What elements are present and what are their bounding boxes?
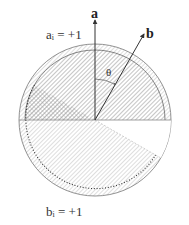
measurement-disk-diagram	[0, 0, 189, 225]
a-outcome-value: = +1	[54, 27, 82, 42]
b-outcome-value: = +1	[55, 204, 83, 219]
vector-a-label: a	[91, 7, 98, 21]
b-outcome-label: bi = +1	[46, 205, 82, 219]
a-outcome-label: ai = +1	[46, 28, 82, 42]
vector-b-label: b	[146, 27, 154, 41]
theta-label: θ	[106, 67, 111, 78]
